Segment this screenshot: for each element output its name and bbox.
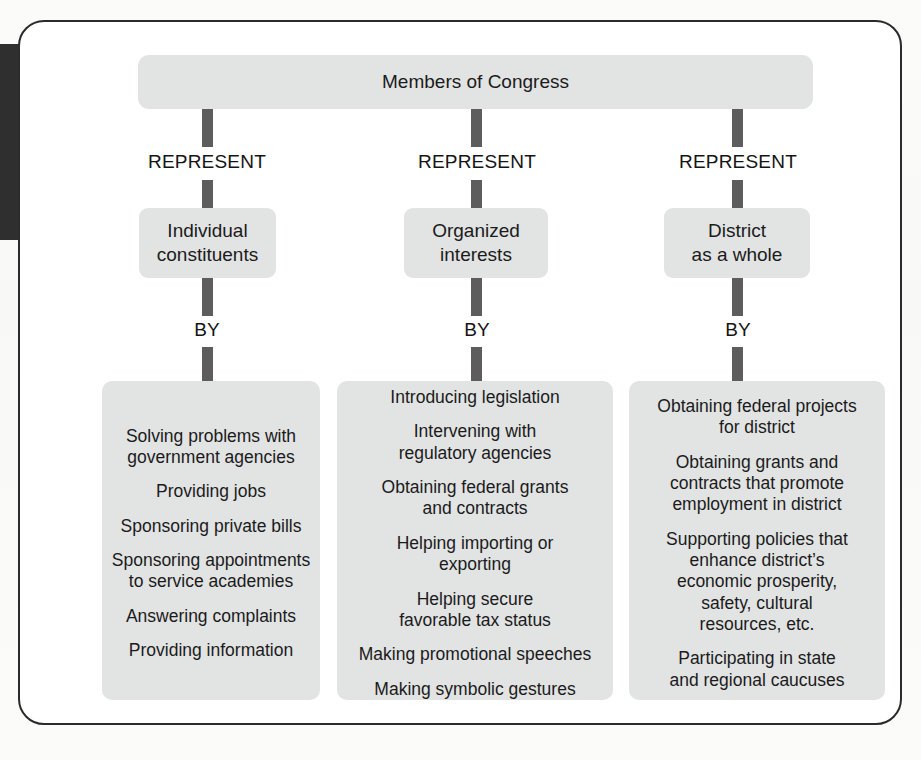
connector-root-to-represent-1 <box>202 109 213 147</box>
activity-list-2: Introducing legislation Intervening with… <box>345 387 605 700</box>
edge-label-represent-3: REPRESENT <box>679 151 797 173</box>
activity-list-3: Obtaining federal projects for district … <box>637 396 877 691</box>
edge-label-represent-1: REPRESENT <box>148 151 266 173</box>
activity-item: Participating in state and regional cauc… <box>669 648 844 691</box>
node-activities-district-as-a-whole: Obtaining federal projects for district … <box>629 381 885 700</box>
node-activities-individual-constituents: Solving problems with government agencie… <box>102 381 320 700</box>
connector-root-to-represent-2 <box>471 109 482 147</box>
connector-target-to-by-3 <box>732 278 743 316</box>
connector-by-to-activities-1 <box>202 347 213 381</box>
activity-item: Sponsoring private bills <box>121 516 302 537</box>
activity-item: Answering complaints <box>126 606 296 627</box>
activity-item: Obtaining federal projects for district <box>657 396 856 439</box>
activity-item: Making symbolic gestures <box>374 679 575 700</box>
edge-label-by-2: BY <box>464 319 490 341</box>
node-district-as-a-whole-label: District as a whole <box>692 219 783 267</box>
activity-list-1: Solving problems with government agencie… <box>110 426 312 662</box>
activity-item: Making promotional speeches <box>359 644 592 665</box>
activity-item: Helping secure favorable tax status <box>399 589 551 632</box>
connector-represent-to-target-3 <box>732 180 743 208</box>
activity-item: Solving problems with government agencie… <box>126 426 296 469</box>
node-individual-constituents-label: Individual constituents <box>157 219 258 267</box>
activity-item: Supporting policies that enhance distric… <box>666 529 848 636</box>
node-activities-organized-interests: Introducing legislation Intervening with… <box>337 381 613 700</box>
figure-page: C Members of Congress REPRESENT Individu… <box>0 0 921 760</box>
connector-by-to-activities-2 <box>471 347 482 381</box>
activity-item: Introducing legislation <box>390 387 559 408</box>
edge-label-by-3: BY <box>725 319 751 341</box>
activity-item: Intervening with regulatory agencies <box>399 421 552 464</box>
node-members-of-congress: Members of Congress <box>138 55 813 109</box>
node-individual-constituents: Individual constituents <box>139 208 276 278</box>
edge-label-by-1: BY <box>194 319 220 341</box>
node-district-as-a-whole: District as a whole <box>664 208 810 278</box>
connector-by-to-activities-3 <box>732 347 743 381</box>
connector-represent-to-target-2 <box>471 180 482 208</box>
connector-root-to-represent-3 <box>732 109 743 147</box>
connector-represent-to-target-1 <box>202 180 213 208</box>
activity-item: Providing information <box>129 640 293 661</box>
node-members-of-congress-label: Members of Congress <box>382 70 569 94</box>
activity-item: Obtaining grants and contracts that prom… <box>670 452 844 516</box>
connector-target-to-by-1 <box>202 278 213 316</box>
representation-flow-diagram: Members of Congress REPRESENT Individual… <box>0 0 921 760</box>
node-organized-interests-label: Organized interests <box>432 219 520 267</box>
activity-item: Sponsoring appointments to service acade… <box>112 550 310 593</box>
edge-label-represent-2: REPRESENT <box>418 151 536 173</box>
activity-item: Helping importing or exporting <box>397 533 554 576</box>
activity-item: Obtaining federal grants and contracts <box>382 477 569 520</box>
node-organized-interests: Organized interests <box>404 208 548 278</box>
connector-target-to-by-2 <box>471 278 482 316</box>
activity-item: Providing jobs <box>156 481 266 502</box>
